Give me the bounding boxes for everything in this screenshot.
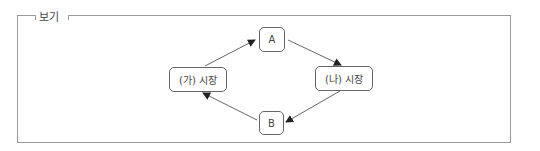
arrow-ga-to-a (205, 40, 255, 66)
node-a: A (259, 27, 285, 52)
arrow-a-to-na (288, 40, 341, 65)
node-b: B (259, 111, 284, 135)
node-market-ga: (가) 시장 (169, 67, 227, 92)
arrow-b-to-ga (203, 93, 257, 120)
node-market-na: (나) 시장 (315, 66, 373, 91)
arrow-na-to-b (286, 91, 340, 122)
